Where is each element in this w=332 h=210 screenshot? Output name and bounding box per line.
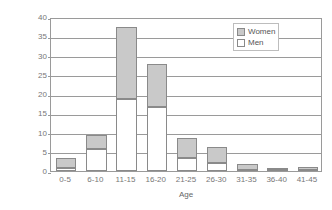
legend-swatch-men-icon [237, 39, 245, 47]
bar-group [298, 17, 319, 171]
bar-segment-women [207, 147, 228, 163]
bar-segment-men [177, 158, 198, 171]
y-axis-tick-label: 40 [29, 14, 47, 22]
x-axis-tick-label: 11-15 [110, 175, 140, 185]
bar-group [86, 17, 107, 171]
x-axis-title: Age [50, 190, 322, 199]
y-axis-tick-labels: 0510152025303540 [26, 0, 47, 210]
y-axis-tick-label: 15 [29, 110, 47, 118]
y-axis-tick-label: 5 [29, 149, 47, 157]
bar-segment-men [147, 107, 168, 171]
bar-segment-women [86, 135, 107, 149]
bar-segment-women [298, 167, 319, 170]
chart-legend: Women Men [233, 23, 279, 51]
bar-segment-men [56, 168, 77, 171]
x-axis-tick-label: 41-45 [292, 175, 322, 185]
bar-segment-women [116, 27, 137, 99]
x-axis-tick-label: 6-10 [80, 175, 110, 185]
legend-label-men: Men [248, 38, 264, 47]
bar-segment-women [56, 158, 77, 168]
y-axis-tick-label: 25 [29, 72, 47, 80]
bar-segment-women [177, 138, 198, 158]
bar-segment-men [207, 163, 228, 171]
bar-group [56, 17, 77, 171]
bar-segment-women [147, 64, 168, 108]
plot-area [50, 18, 322, 172]
bar-segment-women [267, 168, 288, 170]
x-axis-tick-labels: 0-56-1011-1516-2021-2526-3031-3536-4041-… [50, 175, 322, 187]
x-axis-tick-label: 0-5 [50, 175, 80, 185]
bar-series-container [51, 19, 321, 171]
bar-segment-women [237, 164, 258, 170]
y-axis-tick-label: 0 [29, 168, 47, 176]
y-axis-tick-label: 35 [29, 33, 47, 41]
x-axis-tick-label: 36-40 [262, 175, 292, 185]
y-axis-tick-label: 10 [29, 130, 47, 138]
x-axis-tick-label: 31-35 [231, 175, 261, 185]
y-axis-tick-label: 30 [29, 53, 47, 61]
bar-group [207, 17, 228, 171]
y-axis-tickmark [48, 173, 51, 174]
y-axis-tick-label: 20 [29, 91, 47, 99]
legend-item-men: Men [237, 37, 275, 48]
bar-group [147, 17, 168, 171]
legend-item-women: Women [237, 26, 275, 37]
x-axis-tick-label: 16-20 [141, 175, 171, 185]
x-axis-tick-label: 26-30 [201, 175, 231, 185]
bar-chart: Percent of Individuals 0510152025303540 … [0, 0, 332, 210]
bar-segment-men [86, 149, 107, 171]
x-axis-tick-label: 21-25 [171, 175, 201, 185]
bar-group [177, 17, 198, 171]
legend-label-women: Women [248, 27, 275, 36]
bar-segment-men [116, 99, 137, 171]
bar-group [116, 17, 137, 171]
legend-swatch-women-icon [237, 28, 245, 36]
